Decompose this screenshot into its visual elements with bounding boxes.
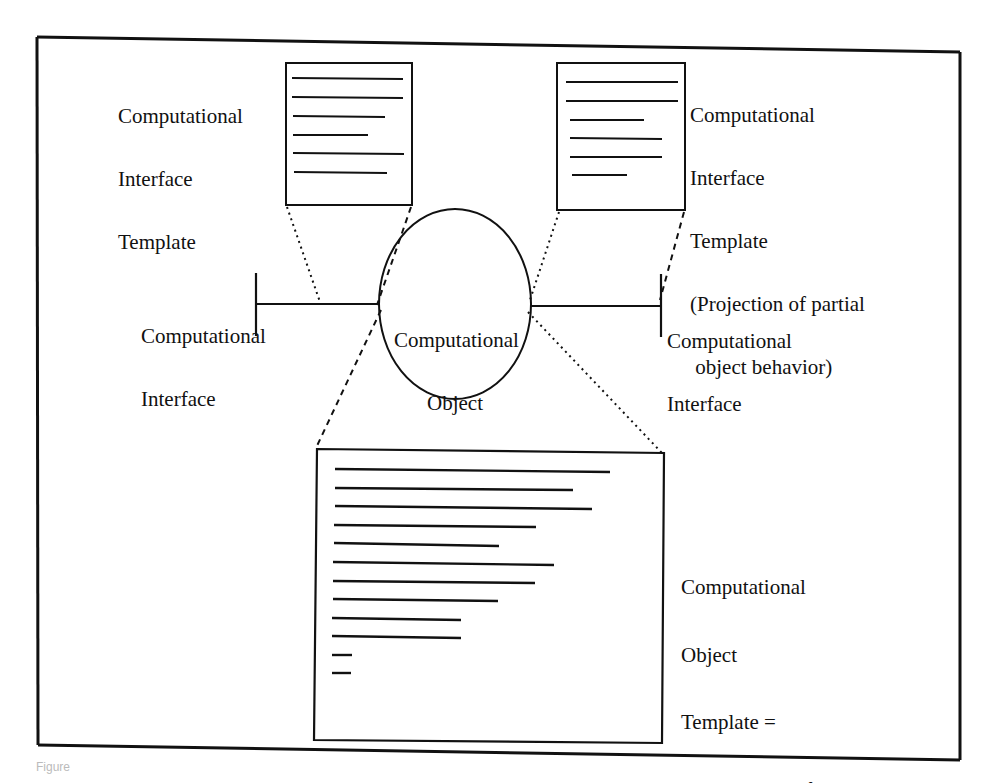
left-template-projection-lines [287,207,411,305]
left-interface-label-line: Computational [141,326,266,347]
object-template-label-line: Composition of [681,779,892,783]
object-template-label-line: Template = [681,711,892,734]
object-template-label-line: Computational [681,576,892,599]
object-template-label: Computational Object Template = Composit… [681,531,892,783]
left-template-label: Computational Interface Template [118,64,243,274]
right-interface-label-line: Interface [667,394,792,415]
left-interface-label: Computational Interface [141,284,266,431]
right-template-box [557,63,685,210]
object-template-box [314,449,664,743]
left-template-box [286,63,412,205]
figure-caption: Figure [36,760,70,774]
left-interface-connector [256,273,380,336]
left-template-label-line: Interface [118,169,243,190]
left-template-label-line: Template [118,232,243,253]
right-interface-label: Computational Interface [667,289,792,436]
right-interface-label-line: Computational [667,331,792,352]
right-template-label-line: Interface [690,168,865,189]
left-template-label-line: Computational [118,106,243,127]
left-interface-label-line: Interface [141,389,266,410]
object-label: Computational Object [394,288,516,435]
object-template-label-line: Object [681,644,892,667]
right-interface-connector [530,274,661,337]
right-template-label-line: Template [690,231,865,252]
object-label-line: Object [394,393,516,414]
right-template-label-line: Computational [690,105,865,126]
object-label-line: Computational [394,330,516,351]
